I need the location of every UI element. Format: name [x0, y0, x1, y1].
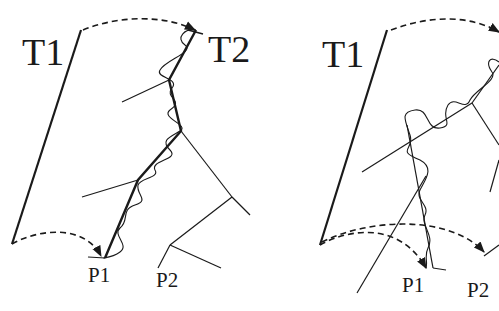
label-t1-right: T1 — [322, 35, 364, 73]
wavy-chain-left — [104, 30, 196, 258]
label-t1-left: T1 — [22, 33, 64, 71]
dashed-arrow-top — [83, 19, 195, 30]
wavy-chain-right — [405, 59, 499, 268]
dashed-arrow-bottom-p2 — [322, 224, 484, 252]
dashed-arrow-bottom-p1 — [320, 232, 426, 268]
p1-tick — [88, 257, 105, 258]
dashed-arrow-bottom — [12, 232, 101, 256]
primitive-path-thick — [105, 30, 196, 258]
label-p2-left: P2 — [156, 270, 178, 291]
dashed-arrow-top-right — [391, 19, 499, 32]
label-p2-right: P2 — [467, 280, 489, 301]
label-p1-right: P1 — [402, 275, 424, 296]
side-chains — [82, 80, 250, 268]
label-t2-left: T2 — [208, 30, 250, 68]
label-p1-left: P1 — [88, 265, 110, 286]
side-chains-right — [357, 65, 499, 293]
